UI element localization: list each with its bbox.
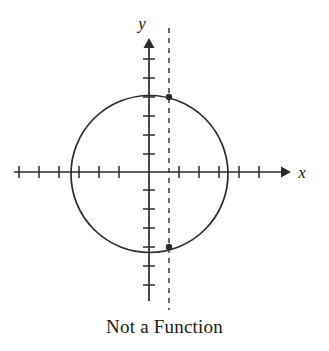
coordinate-plane-graphic: y x xyxy=(0,0,329,351)
y-axis-label: y xyxy=(136,14,146,33)
upper-intersection-point xyxy=(166,94,172,100)
figure-caption: Not a Function xyxy=(0,316,329,338)
x-axis-arrow-icon xyxy=(281,167,291,178)
y-axis-arrow-icon xyxy=(144,38,155,48)
figure-root: y x Not a Function xyxy=(0,0,329,351)
x-axis-label: x xyxy=(297,163,306,182)
lower-intersection-point xyxy=(166,244,172,250)
